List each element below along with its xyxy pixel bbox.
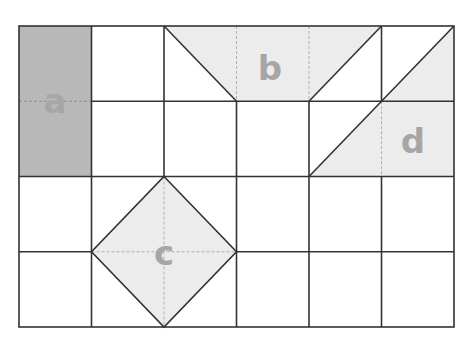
label-a: a [44, 81, 67, 121]
label-b: b [258, 48, 282, 88]
grid-shapes-diagram: a b c d [0, 0, 471, 345]
label-c: c [154, 233, 174, 273]
label-d: d [401, 121, 425, 161]
